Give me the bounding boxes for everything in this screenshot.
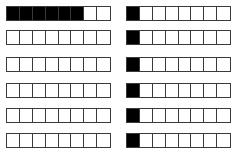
empty-cell [153,84,166,97]
empty-cell [46,84,59,97]
empty-cell [217,31,230,44]
empty-cell [166,31,179,44]
empty-cell [46,109,59,122]
filled-cell [59,7,72,20]
filled-cell [71,7,84,20]
empty-cell [7,134,20,147]
empty-cell [46,31,59,44]
left-strip-4 [6,83,111,98]
empty-cell [140,7,153,20]
empty-cell [166,58,179,71]
empty-cell [46,58,59,71]
empty-cell [191,109,204,122]
filled-cell [127,58,140,71]
empty-cell [84,84,97,97]
right-strip-5 [126,108,231,123]
empty-cell [97,84,110,97]
empty-cell [179,134,192,147]
filled-cell [127,134,140,147]
empty-cell [153,31,166,44]
empty-cell [204,7,217,20]
empty-cell [153,134,166,147]
empty-cell [179,7,192,20]
empty-cell [59,31,72,44]
empty-cell [217,58,230,71]
filled-cell [33,7,46,20]
right-strip-2 [126,30,231,45]
empty-cell [33,31,46,44]
empty-cell [217,7,230,20]
empty-cell [33,134,46,147]
empty-cell [153,7,166,20]
left-strip-1 [6,6,111,21]
empty-cell [7,84,20,97]
empty-cell [71,31,84,44]
right-strip-3 [126,57,231,72]
right-strip-1 [126,6,231,21]
filled-cell [7,7,20,20]
filled-cell [127,109,140,122]
empty-cell [33,84,46,97]
empty-cell [179,84,192,97]
empty-cell [71,84,84,97]
empty-cell [7,31,20,44]
empty-cell [97,58,110,71]
empty-cell [20,134,33,147]
empty-cell [191,31,204,44]
empty-cell [46,134,59,147]
empty-cell [204,58,217,71]
empty-cell [84,134,97,147]
empty-cell [20,58,33,71]
filled-cell [20,7,33,20]
empty-cell [71,58,84,71]
empty-cell [166,84,179,97]
left-strip-2 [6,30,111,45]
empty-cell [153,58,166,71]
empty-cell [166,7,179,20]
right-strip-6 [126,133,231,148]
empty-cell [191,134,204,147]
empty-cell [179,31,192,44]
empty-cell [97,31,110,44]
empty-cell [71,109,84,122]
empty-cell [153,109,166,122]
empty-cell [97,7,110,20]
left-strip-6 [6,133,111,148]
empty-cell [140,109,153,122]
empty-cell [84,109,97,122]
empty-cell [140,84,153,97]
filled-cell [127,84,140,97]
empty-cell [59,84,72,97]
empty-cell [97,109,110,122]
empty-cell [217,84,230,97]
empty-cell [140,58,153,71]
filled-cell [46,7,59,20]
empty-cell [20,31,33,44]
empty-cell [191,84,204,97]
empty-cell [166,109,179,122]
empty-cell [7,58,20,71]
empty-cell [7,109,20,122]
empty-cell [191,58,204,71]
empty-cell [166,134,179,147]
empty-cell [191,7,204,20]
empty-cell [20,109,33,122]
empty-cell [97,134,110,147]
empty-cell [204,31,217,44]
filled-cell [127,31,140,44]
empty-cell [140,134,153,147]
empty-cell [217,134,230,147]
empty-cell [204,84,217,97]
right-strip-4 [126,83,231,98]
empty-cell [204,109,217,122]
empty-cell [59,134,72,147]
empty-cell [59,109,72,122]
empty-cell [33,109,46,122]
empty-cell [140,31,153,44]
empty-cell [204,134,217,147]
empty-cell [20,84,33,97]
empty-cell [84,31,97,44]
empty-cell [217,109,230,122]
empty-cell [59,58,72,71]
empty-cell [84,7,97,20]
